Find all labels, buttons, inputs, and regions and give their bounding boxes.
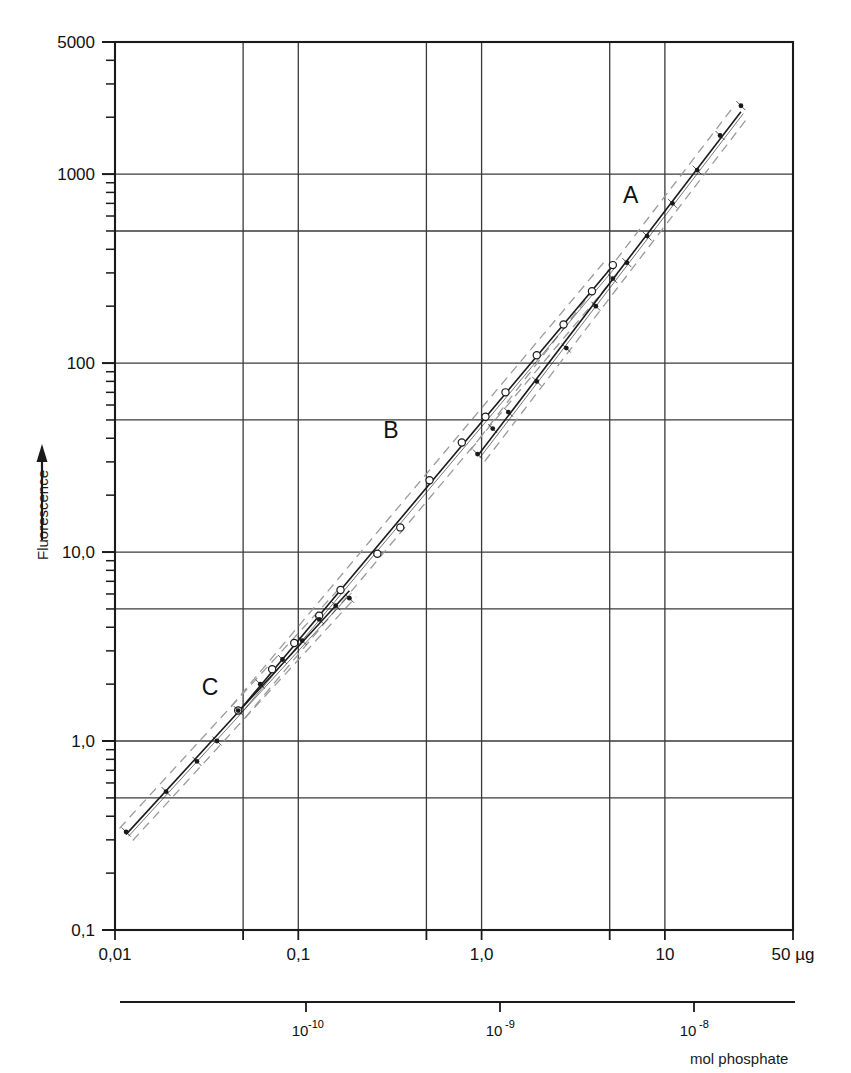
data-point-b (609, 261, 616, 268)
confidence-band-a (485, 117, 748, 461)
plot-frame (115, 42, 793, 930)
x-tick-label: 1,0 (470, 945, 494, 964)
data-point-b (458, 439, 465, 446)
x-tick-label: 10 (655, 945, 674, 964)
plot-border (115, 42, 793, 930)
data-point-tick (488, 424, 497, 433)
secondary-x-tick-label: 10 (486, 1022, 503, 1039)
y-tick-label: 5000 (57, 33, 95, 52)
y-tick-label: 100 (67, 354, 95, 373)
secondary-x-tick-exponent: -9 (505, 1018, 515, 1030)
data-point-b (397, 524, 404, 531)
secondary-x-tick-label: 10 (680, 1022, 697, 1039)
data-point-tick (736, 101, 745, 110)
secondary-axis-title: mol phosphate (690, 1050, 788, 1067)
x-tick-label: 0,1 (286, 945, 310, 964)
secondary-x-tick-exponent: -10 (308, 1018, 324, 1030)
curve-a-secondary (480, 114, 743, 458)
data-point-b (337, 586, 344, 593)
data-point-b (533, 352, 540, 359)
data-point-b (588, 288, 595, 295)
curve-c-secondary (128, 593, 351, 837)
grid-layer (115, 42, 793, 930)
data-point-b (374, 550, 381, 557)
confidence-bands (119, 106, 748, 840)
axis-labels: 0,11,010,0100100050000,010,11,01050 µgFl… (34, 33, 814, 1067)
calibration-chart: 0,11,010,0100100050000,010,11,01050 µgFl… (0, 0, 851, 1073)
data-markers (122, 101, 746, 836)
y-tick-label: 10,0 (62, 543, 95, 562)
data-point-b (482, 413, 489, 420)
data-point-b (502, 389, 509, 396)
axis-ticks (102, 42, 793, 940)
data-point-b (426, 477, 433, 484)
data-curves (126, 112, 743, 837)
data-point-b (560, 321, 567, 328)
x-tick-label: 50 µg (772, 945, 815, 964)
y-tick-label: 1,0 (71, 732, 95, 751)
secondary-x-tick-label: 10 (292, 1022, 309, 1039)
confidence-band-b (231, 260, 606, 706)
y-tick-label: 0,1 (71, 921, 95, 940)
secondary-x-tick-exponent: -8 (699, 1018, 709, 1030)
x-tick-label: 0,01 (98, 945, 131, 964)
y-tick-label: 1000 (57, 165, 95, 184)
curve-label-c: C (202, 674, 219, 700)
y-axis-title: Fluorescence (34, 470, 51, 560)
confidence-band-c (119, 585, 342, 829)
up-arrow-icon (37, 444, 48, 462)
curve-label-a: A (623, 182, 639, 208)
figure-container: 0,11,010,0100100050000,010,11,01050 µgFl… (0, 0, 851, 1073)
data-point-b (269, 666, 276, 673)
confidence-band-c (133, 597, 356, 841)
curve-label-b: B (383, 417, 398, 443)
confidence-band-b (245, 271, 620, 717)
data-point-b (291, 639, 298, 646)
curve-b-secondary (240, 268, 615, 714)
